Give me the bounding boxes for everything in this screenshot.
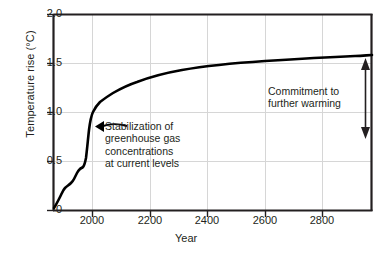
commitment-arrow bbox=[361, 58, 370, 139]
annotation-stabilization-line-1: Stabilization of bbox=[105, 120, 180, 132]
xtick-label-2600: 2600 bbox=[240, 215, 290, 226]
ytick-label-5: 0 bbox=[22, 204, 62, 215]
stabilization-arrowhead bbox=[95, 121, 104, 132]
annotation-commitment-line-2: further warming bbox=[268, 97, 341, 109]
commitment-arrowhead-bottom bbox=[361, 127, 370, 139]
gridlines bbox=[54, 14, 372, 211]
xtick-label-2800: 2800 bbox=[297, 215, 347, 226]
temperature-curve bbox=[54, 55, 372, 208]
annotation-stabilization-line-3: concentrations bbox=[105, 145, 180, 157]
x-axis-label: Year bbox=[175, 232, 197, 244]
annotation-stabilization-line-4: at current levels bbox=[105, 157, 180, 169]
xtick-label-2400: 2400 bbox=[182, 215, 232, 226]
y-axis-label: Temperature rise (°C) bbox=[24, 4, 36, 164]
temperature-rise-chart: 2.0 1.5 1.0 0.5 0 2000 2200 2400 2600 28… bbox=[0, 0, 386, 256]
xtick-label-2000: 2000 bbox=[67, 215, 117, 226]
annotation-stabilization: Stabilization of greenhouse gas concentr… bbox=[105, 120, 180, 170]
annotation-commitment-line-1: Commitment to bbox=[268, 85, 341, 97]
annotation-commitment: Commitment to further warming bbox=[268, 85, 341, 110]
xtick-label-2200: 2200 bbox=[125, 215, 175, 226]
annotation-stabilization-line-2: greenhouse gas bbox=[105, 132, 180, 144]
